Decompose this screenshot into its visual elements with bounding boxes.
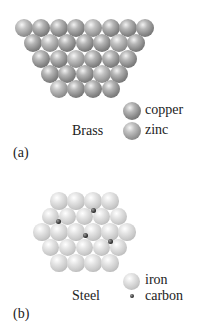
iron-atom-icon bbox=[50, 254, 68, 272]
iron-atom-icon bbox=[118, 223, 136, 241]
panel-b-caption: (b) bbox=[13, 306, 29, 322]
iron-atom-icon bbox=[33, 223, 51, 241]
carbon-atom-icon bbox=[108, 239, 113, 244]
iron-atom-icon bbox=[101, 254, 119, 272]
carbon-atom-icon bbox=[56, 219, 61, 224]
legend-iron-label: iron bbox=[145, 272, 168, 288]
legend-carbon-atom-icon bbox=[130, 294, 134, 298]
iron-atom-icon bbox=[84, 254, 102, 272]
panel-steel: iron carbon Steel (b) bbox=[0, 0, 197, 322]
iron-atom-icon bbox=[67, 192, 85, 210]
steel-title: Steel bbox=[72, 288, 100, 304]
iron-atom-icon bbox=[84, 192, 102, 210]
legend-iron-atom-icon bbox=[123, 273, 140, 290]
carbon-atom-icon bbox=[83, 233, 88, 238]
iron-atom-icon bbox=[50, 223, 68, 241]
iron-atom-icon bbox=[50, 192, 68, 210]
legend-carbon-label: carbon bbox=[145, 288, 183, 304]
iron-atom-icon bbox=[101, 192, 119, 210]
iron-atom-icon bbox=[67, 254, 85, 272]
iron-atom-icon bbox=[67, 223, 85, 241]
iron-atom-icon bbox=[84, 223, 102, 241]
carbon-atom-icon bbox=[91, 208, 96, 213]
